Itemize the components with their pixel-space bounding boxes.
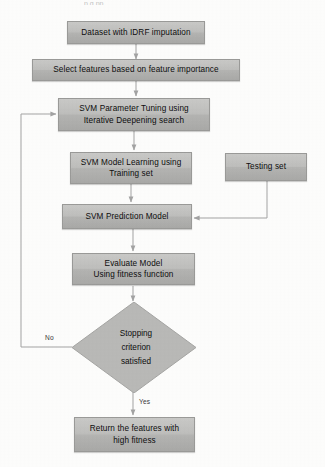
node-return-features-label: Return the features with high fitness [90, 423, 179, 446]
node-select-features-label: Select features based on feature importa… [53, 64, 218, 76]
node-testing-set: Testing set [225, 153, 307, 181]
node-param-tuning-label: SVM Parameter Tuning using Iterative Dee… [79, 103, 189, 126]
node-prediction-model-label: SVM Prediction Model [86, 211, 169, 223]
node-select-features: Select features based on feature importa… [32, 59, 240, 81]
edge-testing-to-prediction [194, 181, 267, 218]
node-model-learning-label: SVM Model Learning using Training set [81, 157, 182, 180]
edge-decision-no-to-tuning [21, 114, 72, 347]
cut-off-title-fragment: p g pp [84, 0, 284, 5]
node-dataset-label: Dataset with IDRF imputation [81, 27, 190, 39]
node-prediction-model: SVM Prediction Model [62, 204, 192, 229]
node-model-learning: SVM Model Learning using Training set [70, 152, 192, 184]
node-param-tuning: SVM Parameter Tuning using Iterative Dee… [58, 98, 210, 131]
edge-label-yes: Yes [139, 398, 150, 405]
node-stopping-criterion-label: Stopping criterion satisfied [72, 302, 196, 393]
flowchart-figure: p g pp [0, 0, 325, 467]
node-evaluate-model: Evaluate Model Using fitness function [72, 253, 195, 285]
edge-label-no: No [45, 334, 54, 341]
node-stopping-criterion: Stopping criterion satisfied [72, 302, 196, 393]
node-return-features: Return the features with high fitness [74, 417, 195, 452]
node-testing-set-label: Testing set [246, 161, 286, 173]
node-dataset: Dataset with IDRF imputation [67, 21, 205, 44]
node-evaluate-model-label: Evaluate Model Using fitness function [93, 258, 173, 281]
